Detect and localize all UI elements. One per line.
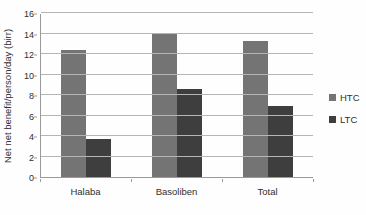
- gridline: [41, 94, 313, 95]
- y-tick-label: 10: [24, 71, 34, 81]
- y-tick-mark: [34, 178, 37, 179]
- bar-group-total: [222, 14, 313, 177]
- legend-item-ltc: LTC: [329, 114, 360, 125]
- bar-group-halaba: [41, 14, 132, 177]
- legend: HTCLTC: [329, 92, 360, 125]
- gridline: [41, 74, 313, 75]
- legend-label: HTC: [340, 92, 360, 103]
- y-tick-mark: [34, 55, 37, 56]
- y-tick-mark: [34, 14, 37, 15]
- y-tick-mark: [34, 75, 37, 76]
- y-tick-label: 16: [24, 9, 34, 19]
- legend-item-htc: HTC: [329, 92, 360, 103]
- gridline: [41, 115, 313, 116]
- y-tick-label: 14: [24, 30, 34, 40]
- gridline: [41, 12, 313, 13]
- gridline: [41, 156, 313, 157]
- x-tick-mark: [313, 179, 314, 182]
- bar-chart: Net net benefit/person/day (birr) 024681…: [0, 0, 366, 215]
- y-tick-mark: [34, 157, 37, 158]
- x-label-halaba: Halaba: [40, 186, 131, 197]
- bar-htc-total: [243, 41, 268, 177]
- bar-htc-halaba: [61, 50, 86, 177]
- y-tick-mark: [34, 34, 37, 35]
- bar-groups: [41, 14, 313, 177]
- x-tick-mark: [131, 179, 132, 182]
- bar-ltc-halaba: [86, 139, 111, 177]
- gridline: [41, 53, 313, 54]
- y-tick-mark: [34, 96, 37, 97]
- plot-area: [40, 14, 313, 178]
- legend-swatch-icon: [329, 116, 336, 123]
- x-tick-mark: [222, 179, 223, 182]
- gridline: [41, 33, 313, 34]
- y-axis-ticks: 0246810121416: [0, 14, 37, 178]
- bar-group-basoliben: [132, 14, 223, 177]
- x-label-total: Total: [222, 186, 313, 197]
- x-axis-labels: HalabaBasolibenTotal: [40, 186, 313, 197]
- bar-ltc-basoliben: [177, 89, 202, 177]
- y-tick-mark: [34, 116, 37, 117]
- gridline: [41, 135, 313, 136]
- y-tick-label: 12: [24, 50, 34, 60]
- x-axis-tick-marks: [40, 178, 313, 182]
- y-tick-mark: [34, 137, 37, 138]
- legend-label: LTC: [340, 114, 357, 125]
- legend-swatch-icon: [329, 94, 336, 101]
- x-tick-mark: [40, 179, 41, 182]
- x-label-basoliben: Basoliben: [131, 186, 222, 197]
- bar-ltc-total: [268, 106, 293, 177]
